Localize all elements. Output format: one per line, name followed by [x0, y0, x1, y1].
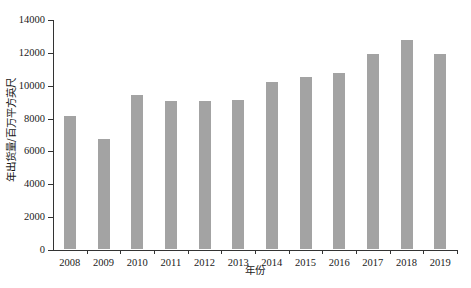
y-tick: 6000 [53, 151, 54, 152]
x-tick-mark [423, 250, 424, 254]
y-tick: 14000 [53, 20, 54, 21]
bar [367, 54, 379, 249]
bar [98, 139, 110, 249]
x-tick-mark [221, 250, 222, 254]
x-axis-title: 年份 [53, 264, 457, 277]
bar [333, 73, 345, 249]
x-tick-mark [289, 250, 290, 254]
bar [165, 101, 177, 249]
bar [300, 77, 312, 249]
y-tick-mark [48, 86, 53, 87]
y-tick-label: 10000 [19, 79, 45, 93]
x-tick-mark [87, 250, 88, 254]
y-tick-label: 8000 [24, 112, 45, 126]
y-tick-label: 4000 [24, 177, 45, 191]
y-tick-mark [48, 184, 53, 185]
bar [199, 101, 211, 249]
bar [434, 54, 446, 249]
bar [232, 100, 244, 250]
bar [401, 40, 413, 249]
y-tick-label: 0 [40, 243, 45, 257]
x-tick-mark [188, 250, 189, 254]
y-tick-mark [48, 20, 53, 21]
bar [64, 116, 76, 249]
y-tick: 4000 [53, 184, 54, 185]
y-tick: 2000 [53, 217, 54, 218]
y-tick: 10000 [53, 86, 54, 87]
x-tick-mark [120, 250, 121, 254]
y-tick-label: 14000 [19, 13, 45, 27]
x-tick-mark [390, 250, 391, 254]
bar [266, 82, 278, 249]
y-tick: 12000 [53, 53, 54, 54]
x-tick-mark [154, 250, 155, 254]
x-tick-mark [356, 250, 357, 254]
y-tick-label: 2000 [24, 210, 45, 224]
bar-chart: 年出货量/百万平方英尺 0200040006000800010000120001… [0, 0, 471, 288]
y-tick: 0 [53, 250, 54, 251]
y-tick-mark [48, 151, 53, 152]
bar [131, 95, 143, 249]
x-tick-mark [255, 250, 256, 254]
y-tick-mark [48, 217, 53, 218]
x-tick-mark [322, 250, 323, 254]
y-tick-label: 12000 [19, 46, 45, 60]
x-tick-mark [457, 250, 458, 254]
y-axis-title: 年出货量/百万平方英尺 [6, 50, 17, 210]
y-tick-mark [48, 53, 53, 54]
y-tick: 8000 [53, 119, 54, 120]
plot-area: 02000400060008000100001200014000 2008200… [53, 20, 457, 250]
y-tick-label: 6000 [24, 144, 45, 158]
y-tick-mark [48, 119, 53, 120]
y-tick-mark [48, 250, 53, 251]
